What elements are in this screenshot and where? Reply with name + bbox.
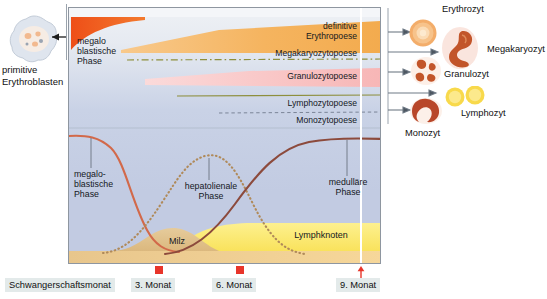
megaloblastic-wedge-label: megalo blastische Phase: [77, 36, 147, 67]
tick-marker-6-monat: [236, 266, 244, 274]
erythrozyt-label: Erythrozyt: [442, 4, 484, 15]
axis-tick-label-6-monat: 6. Monat: [212, 278, 256, 292]
primitive-label-line1: primitive: [2, 64, 68, 76]
megalo-phase-line2: blastische: [74, 179, 136, 189]
megakaryozyt-icon: [440, 26, 480, 74]
medullaere-phase-line1: medulläre: [319, 177, 377, 187]
phase-label-hepatolienale: hepatolienale Phase: [173, 181, 249, 201]
band-label-definitive-erythropoese: definitive Erythropoese: [257, 21, 357, 41]
axis-tick-label-9-monat: 9. Monat: [336, 278, 380, 292]
medullaere-phase-line2: Phase: [319, 187, 377, 197]
tick-marker-9-monat-arrow-icon: [356, 264, 366, 276]
definitive-line2: Erythropoese: [257, 31, 357, 41]
hematopoiesis-chart: megalo blastische Phase definitive Eryth…: [68, 7, 381, 264]
megakaryozyt-label: Megakaryozyt: [487, 44, 545, 55]
mega-wedge-line3: Phase: [77, 56, 147, 66]
primitive-label-line2: Erythroblasten: [2, 76, 68, 88]
band-label-granulozytopoese: Granulozytopoese: [247, 71, 357, 81]
lymphozyt-label: Lymphozyt: [461, 108, 506, 119]
band-label-monozytopoese: Monozytopoese: [247, 115, 357, 125]
megalo-phase-line1: megalo-: [74, 169, 136, 179]
primitive-erythroblast-arrow-icon: [44, 30, 68, 44]
monozyt-label: Monozyt: [405, 128, 440, 139]
granulozyt-icon: [410, 56, 442, 90]
monozyt-icon: [408, 96, 444, 130]
mega-wedge-line1: megalo: [77, 36, 147, 46]
organ-label-milz: Milz: [157, 236, 197, 246]
band-label-lymphozytopoese: Lymphozytopoese: [247, 98, 357, 108]
megalo-phase-line3: Phase: [74, 189, 136, 199]
primitive-erythroblast-label: primitive Erythroblasten: [2, 64, 68, 87]
band-label-megakaryozytopoese: Megakaryozytopoese: [237, 48, 357, 58]
tick-marker-3-monat: [155, 266, 163, 274]
organ-label-lymphknoten: Lymphknoten: [281, 230, 361, 240]
mega-wedge-line2: blastische: [77, 46, 147, 56]
definitive-line1: definitive: [257, 21, 357, 31]
hepato-phase-line2: Phase: [173, 191, 249, 201]
granulozyt-label: Granulozyt: [444, 69, 489, 80]
erythrozyt-icon: [408, 18, 438, 52]
hepato-phase-line1: hepatolienale: [173, 181, 249, 191]
phase-label-megaloblastische: megalo- blastische Phase: [74, 169, 136, 200]
phase-label-medullaere: medulläre Phase: [319, 177, 377, 197]
left-connector-line: [66, 4, 67, 60]
axis-caption: Schwangerschaftsmonat: [5, 278, 115, 292]
axis-tick-label-3-monat: 3. Monat: [131, 278, 175, 292]
